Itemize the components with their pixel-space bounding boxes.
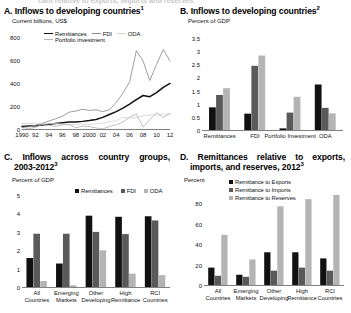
bar-emerging-markets-remittance-to-reserves — [249, 259, 255, 286]
legend-label: ODA — [128, 31, 140, 37]
category-label: EmergingMarkets — [54, 290, 79, 303]
legend-color-swatch — [144, 189, 148, 193]
panel-b-bar-chart — [202, 39, 343, 131]
panel-c-plot-area: AllCountriesEmergingMarketsOtherDevelopi… — [22, 196, 170, 288]
x-axis-tick: 04 — [113, 132, 120, 138]
bar-high-remittance-oda — [129, 274, 136, 288]
y-axis-tick: 0 — [199, 283, 202, 289]
bar-oda-2000 — [322, 108, 329, 131]
bar-rci-countries-remittances — [145, 216, 152, 288]
y-axis-tick: 1 — [17, 267, 20, 273]
panel-a-line-chart — [22, 38, 170, 130]
category-label: RCICountries — [143, 290, 168, 303]
panel-d: D. Remittances relative to exports, impo… — [176, 152, 351, 313]
category-label: AllCountries — [206, 288, 231, 301]
y-axis-tick: 2 — [17, 248, 20, 254]
panel-b-plot-area: RemittancesFDIPortfolio InvestmentODA00.… — [202, 39, 343, 131]
x-axis-tick: 02 — [99, 132, 106, 138]
panel-a-title-text: A. Inflows to developing countries — [4, 6, 141, 16]
bar-fdi-2000 — [251, 66, 258, 131]
y-axis-tick: 0.5 — [192, 115, 200, 121]
x-axis-tick: 1990 — [15, 132, 28, 138]
legend-item-fdi: FDI — [121, 188, 136, 194]
panel-d-bar-chart — [204, 194, 344, 286]
legend-label: Remittance to Exports — [235, 178, 291, 186]
bar-all-countries-remittances — [26, 258, 33, 288]
panel-a-axis-label: Current billions, US$ — [12, 17, 176, 24]
y-axis-tick: 1 — [197, 102, 200, 108]
panel-c-legend: Remittances FDI ODA — [75, 188, 162, 194]
category-label: OtherDeveloping — [81, 290, 110, 303]
x-axis-tick: 96 — [59, 132, 66, 138]
panel-d-axis-line — [204, 285, 344, 286]
legend-line-swatch — [92, 33, 101, 34]
y-axis-tick: 4 — [17, 211, 20, 217]
panel-d-plot-area: AllCountriesEmergingMarketsOtherDevelopi… — [204, 194, 344, 286]
category-label: FDI — [250, 133, 259, 140]
panel-d-title-line2: imports, and reserves, 20123 — [190, 162, 351, 172]
panel-b-axis-line — [202, 130, 343, 131]
x-axis-tick: 98 — [72, 132, 79, 138]
bar-all-countries-remittance-to-exports — [208, 268, 214, 286]
panel-a-plot-area: 0200400600800199092949698200002040608101… — [22, 38, 170, 130]
series-line-fdi — [22, 50, 170, 128]
panel-d-title: D. Remittances relative to exports, — [180, 152, 345, 162]
bar-high-remittance-remittances — [115, 217, 122, 288]
panel-a-axis-line — [22, 129, 170, 130]
y-axis-tick: 0 — [17, 285, 20, 291]
y-axis-tick: 0 — [197, 128, 200, 134]
panel-b-axis-label: Percent of GDP — [188, 17, 351, 24]
panel-c-axis-line — [22, 287, 170, 288]
legend-item-oda: ODA — [144, 188, 162, 194]
x-axis-tick: 08 — [140, 132, 147, 138]
x-axis-tick: 94 — [46, 132, 53, 138]
y-axis-tick: 1.5 — [192, 89, 200, 95]
bar-portfolio-investment-2000 — [287, 113, 294, 131]
y-axis-tick: 400 — [10, 81, 20, 87]
bar-remittances-2000 — [216, 95, 223, 131]
panel-a: A. Inflows to developing countries1 Curr… — [0, 6, 176, 152]
bar-other-developing-remittance-to-reserves — [277, 206, 283, 286]
y-axis-tick: 3 — [197, 49, 200, 55]
panel-b-title: B. Inflows to developing countries2 — [180, 6, 351, 16]
y-axis-tick: 60 — [195, 222, 202, 228]
panel-b-title-text: B. Inflows to developing countries — [180, 6, 317, 16]
category-label: AllCountries — [24, 290, 49, 303]
x-axis-tick: 12 — [167, 132, 174, 138]
y-axis-tick: 800 — [10, 35, 20, 41]
bar-all-countries-fdi — [33, 234, 40, 288]
legend-line-swatch — [117, 33, 126, 34]
panel-c: C. Inflows across country groups, 2003-2… — [0, 152, 176, 313]
x-axis-tick: 10 — [153, 132, 160, 138]
legend-label: Remittance to Imports — [235, 186, 291, 194]
bar-rci-countries-remittance-to-exports — [320, 258, 326, 286]
figure-sheet: cant relative to exports, imports and re… — [0, 0, 351, 313]
bar-rci-countries-fdi — [152, 220, 159, 288]
legend-color-swatch — [75, 189, 79, 193]
bar-all-countries-remittance-to-reserves — [221, 235, 227, 286]
y-axis-tick: 3.5 — [192, 36, 200, 42]
panel-d-title-text: D. Remittances relative to exports, — [180, 152, 345, 162]
bar-fdi-1990 — [244, 114, 251, 131]
bar-oda-2010 — [329, 113, 336, 131]
bar-portfolio-investment-2010 — [294, 97, 301, 131]
x-axis-tick: 06 — [126, 132, 133, 138]
bar-rci-countries-remittance-to-reserves — [333, 195, 339, 286]
panel-a-title: A. Inflows to developing countries1 — [4, 6, 176, 16]
category-label: ODA — [319, 133, 332, 140]
panel-c-axis-label: Percent of GDP — [12, 176, 176, 183]
legend-color-swatch — [121, 189, 125, 193]
category-label: HighRemittance — [111, 290, 140, 303]
legend-color-swatch — [229, 180, 233, 184]
y-axis-tick: 80 — [195, 201, 202, 207]
legend-label: Remittances — [81, 188, 113, 194]
category-label: HighRemittance — [287, 288, 316, 301]
legend-item-remittance-to-exports: Remittance to Exports — [229, 178, 291, 186]
bar-other-developing-fdi — [93, 232, 100, 288]
panel-c-title: C. Inflows across country groups, — [4, 152, 170, 162]
panel-b: B. Inflows to developing countries2 Perc… — [176, 6, 351, 152]
y-axis-tick: 2.5 — [192, 62, 200, 68]
panel-d-title-superscript: 3 — [301, 162, 304, 168]
y-axis-tick: 600 — [10, 58, 20, 64]
panel-b-title-superscript: 2 — [317, 5, 320, 11]
